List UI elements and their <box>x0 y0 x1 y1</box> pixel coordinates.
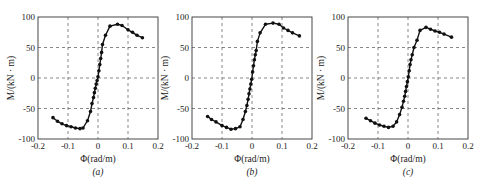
data-point <box>253 58 257 62</box>
data-point <box>100 51 104 55</box>
figure: -100-50050100-0.2-0.100.10.2Φ(rad/m)M/(k… <box>0 0 483 191</box>
y-tick-label: 50 <box>26 43 36 53</box>
data-point <box>135 34 139 38</box>
data-point <box>409 58 413 62</box>
data-point <box>234 127 238 131</box>
data-point <box>403 95 407 99</box>
data-point <box>405 85 409 89</box>
x-tick-label: -0.2 <box>31 141 45 151</box>
x-tick-label: -0.2 <box>185 141 199 151</box>
data-point <box>104 34 108 38</box>
data-point <box>450 35 454 39</box>
y-tick-label: 100 <box>22 12 36 22</box>
data-point <box>245 104 249 108</box>
y-tick-label: -50 <box>177 104 189 114</box>
data-point <box>214 120 218 124</box>
data-point <box>286 29 290 33</box>
data-point <box>412 46 416 50</box>
data-point <box>298 34 302 38</box>
data-point <box>382 124 386 128</box>
chart-panel-1: -100-50050100-0.2-0.100.10.2Φ(rad/m)M/(k… <box>6 12 164 178</box>
data-point <box>98 63 102 67</box>
data-point <box>108 24 112 28</box>
data-point <box>429 27 433 31</box>
data-point <box>402 99 406 103</box>
data-point <box>408 63 412 67</box>
data-point <box>249 82 253 86</box>
y-tick-label: 50 <box>336 43 346 53</box>
y-axis-label: M/(kN · m) <box>160 56 171 100</box>
data-point <box>86 119 90 123</box>
data-point <box>238 125 242 129</box>
data-point <box>282 26 286 30</box>
panel-caption: (c) <box>403 167 414 178</box>
y-tick-labels: -100-50050100 <box>329 12 346 144</box>
data-point <box>94 82 98 86</box>
x-tick-label: 0 <box>406 141 411 151</box>
data-point <box>407 69 411 73</box>
data-point <box>404 90 408 94</box>
x-tick-label: 0.1 <box>276 141 287 151</box>
y-tick-label: -50 <box>333 104 345 114</box>
data-point <box>433 29 437 33</box>
x-tick-label: 0.1 <box>432 141 443 151</box>
data-point <box>364 116 368 120</box>
data-point <box>141 36 145 40</box>
y-tick-label: -50 <box>23 104 35 114</box>
y-tick-labels: -100-50050100 <box>173 12 190 144</box>
chart-panel-3: -100-50050100-0.2-0.100.10.2Φ(rad/m)M/(k… <box>316 12 474 178</box>
data-point <box>369 119 373 123</box>
data-point <box>89 110 93 114</box>
data-point <box>254 53 258 57</box>
x-tick-label: 0.2 <box>306 141 317 151</box>
data-point <box>424 26 428 30</box>
data-point <box>277 23 281 27</box>
data-point <box>415 38 419 42</box>
data-point <box>60 122 64 126</box>
data-point <box>131 30 135 34</box>
data-point <box>99 57 103 61</box>
data-point <box>256 40 260 44</box>
data-point <box>410 53 414 57</box>
data-series-line <box>208 23 300 129</box>
data-point <box>391 124 395 128</box>
x-tick-label: 0 <box>250 141 255 151</box>
x-tick-label: 0.2 <box>152 141 163 151</box>
data-point <box>81 126 85 130</box>
data-point <box>51 116 55 120</box>
y-tick-label: 50 <box>180 43 190 53</box>
data-point <box>56 120 60 124</box>
x-tick-label: -0.1 <box>215 141 229 151</box>
data-point <box>407 75 411 79</box>
data-point <box>97 69 101 73</box>
data-point <box>378 123 382 127</box>
x-tick-labels: -0.2-0.100.10.2 <box>31 141 164 151</box>
data-point <box>400 105 404 109</box>
data-point <box>126 28 130 32</box>
data-point <box>120 24 124 28</box>
x-axis-label: Φ(rad/m) <box>234 154 269 165</box>
x-tick-label: 0 <box>96 141 101 151</box>
y-tick-label: 0 <box>185 73 190 83</box>
data-point <box>220 124 224 128</box>
data-markers <box>206 21 301 131</box>
data-point <box>229 127 233 131</box>
data-point <box>206 115 210 119</box>
y-tick-label: 0 <box>31 73 36 83</box>
data-point <box>95 79 99 83</box>
data-point <box>395 120 399 124</box>
data-point <box>251 70 255 74</box>
data-point <box>254 49 258 53</box>
data-point <box>65 124 69 128</box>
data-point <box>101 43 105 47</box>
data-point <box>96 75 100 79</box>
panel-caption: (a) <box>92 167 103 178</box>
data-point <box>373 121 377 125</box>
data-point <box>271 21 275 25</box>
data-point <box>406 80 410 84</box>
data-point <box>93 91 97 95</box>
data-point <box>246 98 250 102</box>
x-tick-label: -0.2 <box>341 141 355 151</box>
x-tick-labels: -0.2-0.100.10.2 <box>185 141 318 151</box>
data-point <box>418 29 422 33</box>
